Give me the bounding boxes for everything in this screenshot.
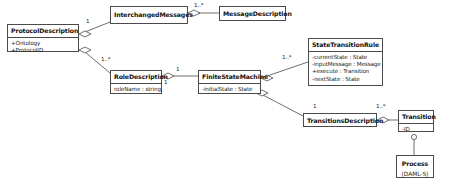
rel-fsm-rule-line xyxy=(267,62,308,76)
class-state-transition-rule[interactable]: StateTransitionRule -currentState : Stat… xyxy=(308,38,383,86)
uml-class-diagram-canvas: ProtocolDescription +Ontology +ProtocolI… xyxy=(0,0,449,185)
diamond-protocol-interchanged xyxy=(79,31,91,37)
attribute: -inputMessage : Message xyxy=(312,61,380,68)
class-name-finite-state-machine: FiniteStateMachine xyxy=(199,71,260,83)
class-attributes-finite-state-machine: -initialState : State xyxy=(199,84,260,95)
diamond-protocol-role xyxy=(79,47,91,53)
multiplicity-fsm-transitions: 1 xyxy=(313,103,316,110)
multiplicity-role-fsm-bottom: 1 xyxy=(164,79,167,86)
class-attributes-state-transition-rule: -currentState : State -inputMessage : Me… xyxy=(309,52,382,85)
multiplicity-protocol-role: 1..* xyxy=(101,56,111,63)
class-finite-state-machine[interactable]: FiniteStateMachine -initialState : State xyxy=(198,70,261,94)
multiplicity-transitions-transition: 1..* xyxy=(376,103,386,110)
attribute: -nextState : State xyxy=(312,76,380,83)
class-name-transition: Transition xyxy=(399,111,433,123)
class-name-interchanged-messages: InterchangedMessages xyxy=(111,7,187,21)
attribute: -currentState : State xyxy=(312,54,380,61)
attribute: -ID xyxy=(402,126,431,133)
class-interchanged-messages[interactable]: InterchangedMessages xyxy=(110,6,188,24)
class-attributes-protocol-description: +Ontology +ProtocolID xyxy=(8,38,78,56)
class-name-state-transition-rule: StateTransitionRule xyxy=(309,39,382,51)
class-protocol-description[interactable]: ProtocolDescription +Ontology +ProtocolI… xyxy=(7,24,79,52)
class-role-description[interactable]: RoleDescription roleName : string xyxy=(110,70,162,94)
class-subtitle-process: (DAML-S) xyxy=(397,170,433,180)
multiplicity-role-fsm-right: 1 xyxy=(176,66,179,73)
attribute: +execute : Transition xyxy=(312,68,380,75)
attribute: +ProtocolID xyxy=(11,47,76,54)
class-name-process: Process xyxy=(397,156,433,170)
attribute: +Ontology xyxy=(11,40,76,47)
class-message-description[interactable]: MessageDescription xyxy=(219,6,286,21)
class-name-transitions-description: TransitionsDescription xyxy=(304,114,376,127)
class-name-role-description: RoleDescription xyxy=(111,71,161,83)
class-name-protocol-description: ProtocolDescription xyxy=(8,25,78,37)
attribute: -initialState : State xyxy=(202,86,258,93)
attribute: roleName : string xyxy=(114,86,159,93)
multiplicity-interchanged-message: 1..* xyxy=(194,2,204,9)
class-transitions-description[interactable]: TransitionsDescription xyxy=(303,113,377,127)
multiplicity-fsm-rule: 1..* xyxy=(282,54,292,61)
class-attributes-transition: -ID xyxy=(399,124,433,135)
class-name-message-description: MessageDescription xyxy=(220,7,285,20)
class-transition[interactable]: Transition -ID xyxy=(398,110,434,132)
multiplicity-protocol-interchanged: 1 xyxy=(86,18,89,25)
class-attributes-role-description: roleName : string xyxy=(111,84,161,95)
rel-fsm-transitions-line xyxy=(261,94,303,116)
class-process[interactable]: Process (DAML-S) xyxy=(396,155,434,178)
